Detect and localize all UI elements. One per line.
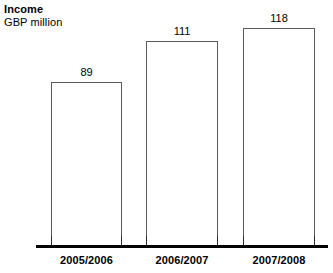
income-bar-chart: Income GBP million 89 111 118 2005/2006 …	[0, 0, 333, 273]
bar-value-label: 118	[243, 12, 315, 24]
x-axis-label-2006-2007: 2006/2007	[141, 254, 223, 266]
x-axis-label-2007-2008: 2007/2008	[238, 254, 320, 266]
x-axis-label-2005-2006: 2005/2006	[46, 254, 127, 266]
bar-2007-2008[interactable]	[243, 28, 315, 248]
bar-value-label: 111	[146, 25, 218, 37]
bar-2006-2007[interactable]	[146, 41, 218, 248]
plot-area: 89 111 118 2005/2006 2006/2007 2007/2008	[0, 0, 333, 273]
bar-2005-2006[interactable]	[51, 82, 122, 248]
x-axis-line	[36, 245, 328, 248]
bar-value-label: 89	[51, 66, 122, 78]
